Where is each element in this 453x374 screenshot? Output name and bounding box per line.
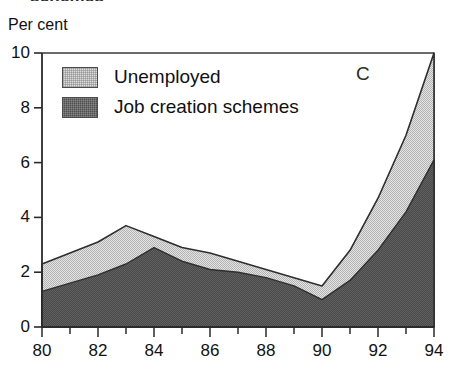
y-axis-tick-label: 0 bbox=[0, 318, 30, 335]
y-axis-tick-label: 8 bbox=[0, 99, 30, 116]
x-axis-tick-label: 84 bbox=[137, 342, 171, 359]
x-axis-tick-label: 80 bbox=[25, 342, 59, 359]
legend-item-unemployed: Unemployed bbox=[62, 62, 299, 92]
x-axis-tick-label: 92 bbox=[361, 342, 395, 359]
legend-label-job-creation-schemes: Job creation schemes bbox=[114, 96, 299, 118]
y-axis-tick-label: 10 bbox=[0, 44, 30, 61]
chart-area: 0246810 8082848688909294 bbox=[0, 0, 453, 374]
y-axis-tick-label: 6 bbox=[0, 154, 30, 171]
x-axis-ticks bbox=[42, 327, 434, 337]
legend-swatch-job-creation-schemes-icon bbox=[62, 97, 98, 118]
legend-item-job-creation-schemes: Job creation schemes bbox=[62, 92, 299, 122]
x-axis-tick-label: 88 bbox=[249, 342, 283, 359]
legend-swatch-unemployed-icon bbox=[62, 67, 98, 88]
x-axis-tick-label: 90 bbox=[305, 342, 339, 359]
y-axis-tick-label: 2 bbox=[0, 263, 30, 280]
x-axis-tick-label: 86 bbox=[193, 342, 227, 359]
x-axis-tick-label: 82 bbox=[81, 342, 115, 359]
chart-legend: Unemployed Job creation schemes bbox=[62, 62, 299, 122]
y-axis-tick-label: 4 bbox=[0, 208, 30, 225]
y-axis-ticks bbox=[34, 53, 42, 327]
panel-letter-label: C bbox=[356, 63, 370, 85]
legend-label-unemployed: Unemployed bbox=[114, 66, 221, 88]
x-axis-tick-label: 94 bbox=[417, 342, 451, 359]
stacked-area-plot bbox=[0, 0, 453, 374]
